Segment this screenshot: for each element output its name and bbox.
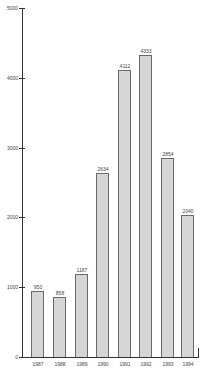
x-tick-label: 1987 — [26, 361, 50, 367]
y-tick-label: 3000 — [7, 145, 18, 151]
bar-value-label: 4112 — [113, 63, 137, 69]
bar-1988 — [53, 297, 66, 357]
x-axis — [22, 357, 199, 358]
y-tick — [19, 8, 25, 9]
x-tick-label: 1992 — [134, 361, 158, 367]
bar-1990 — [96, 173, 109, 357]
x-axis-end-tick — [198, 348, 199, 358]
bar-value-label: 1187 — [70, 267, 94, 273]
bar-1994 — [181, 215, 194, 357]
x-tick-label: 1988 — [48, 361, 72, 367]
y-tick — [19, 357, 25, 358]
bar-value-label: 2040 — [176, 208, 200, 214]
bar-value-label: 2634 — [91, 166, 115, 172]
y-tick-label: 5000 — [7, 5, 18, 11]
bar-value-label: 2854 — [156, 151, 180, 157]
x-tick-label: 1990 — [91, 361, 115, 367]
bar-value-label: 950 — [26, 284, 50, 290]
bar-1991 — [118, 70, 131, 357]
bar-chart: 010002000300040005000 950198785819881187… — [0, 0, 204, 375]
bar-1987 — [31, 291, 44, 357]
bar-value-label: 858 — [48, 290, 72, 296]
bar-1989 — [75, 274, 88, 357]
bar-1993 — [161, 158, 174, 357]
y-tick-label: 4000 — [7, 75, 18, 81]
x-tick-label: 1994 — [176, 361, 200, 367]
bar-value-label: 4333 — [134, 48, 158, 54]
y-tick-label: 1000 — [7, 284, 18, 290]
y-tick — [19, 287, 25, 288]
y-axis — [22, 8, 23, 358]
bar-1992 — [139, 55, 152, 357]
y-tick-label: 0 — [15, 354, 18, 360]
y-tick — [19, 148, 25, 149]
y-tick-label: 2000 — [7, 214, 18, 220]
y-tick — [19, 78, 25, 79]
y-tick — [19, 217, 25, 218]
